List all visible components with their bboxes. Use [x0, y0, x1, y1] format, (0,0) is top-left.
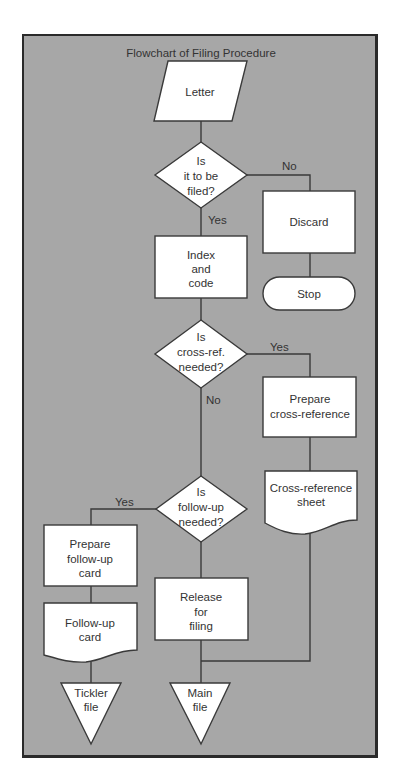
node-prepare-followup: Prepare follow-up card [44, 525, 137, 586]
svg-text:Follow-up: Follow-up [65, 617, 115, 629]
flowchart: Flowchart of Filing Procedure No Yes Yes… [0, 0, 399, 781]
node-discard: Discard [263, 191, 355, 253]
svg-text:card: card [79, 567, 101, 579]
svg-text:Letter: Letter [185, 86, 215, 98]
svg-text:it to be: it to be [184, 170, 219, 182]
svg-text:Discard: Discard [290, 216, 329, 228]
edge-label-yes: Yes [270, 341, 289, 353]
edge-filed-no [247, 175, 310, 191]
document-followup-card: Follow-up card [44, 603, 137, 662]
svg-text:and: and [191, 263, 210, 275]
svg-text:Tickler: Tickler [74, 687, 108, 699]
document-crossref-sheet: Cross-reference sheet [265, 471, 357, 534]
edge-label-no: No [206, 394, 221, 406]
edge-label-yes: Yes [115, 496, 134, 508]
node-release-filing: Release for filing [155, 578, 248, 640]
svg-text:sheet: sheet [297, 496, 326, 508]
node-index-code: Index and code [155, 236, 247, 298]
svg-text:filing: filing [189, 620, 213, 632]
edge-label-no: No [282, 160, 297, 172]
svg-text:Stop: Stop [297, 288, 321, 300]
svg-text:Prepare: Prepare [70, 538, 111, 550]
svg-text:code: code [189, 277, 214, 289]
decision-crossref-needed: Is cross-ref. needed? [155, 320, 247, 388]
decision-followup-needed: Is follow-up needed? [156, 476, 247, 542]
node-letter: Letter [154, 61, 247, 121]
svg-text:file: file [84, 701, 99, 713]
flowchart-title: Flowchart of Filing Procedure [126, 47, 276, 59]
svg-text:Main: Main [188, 687, 213, 699]
node-prepare-crossref: Prepare cross-reference [263, 377, 356, 437]
svg-text:needed?: needed? [179, 361, 224, 373]
svg-text:Is: Is [197, 331, 206, 343]
edge-crossref-yes [247, 354, 310, 377]
svg-text:Is: Is [197, 155, 206, 167]
edge-label-yes: Yes [208, 214, 227, 226]
svg-text:Index: Index [187, 249, 215, 261]
svg-text:file: file [193, 701, 208, 713]
svg-text:follow-up: follow-up [178, 501, 224, 513]
terminator-stop: Stop [263, 277, 355, 310]
svg-text:Cross-reference: Cross-reference [270, 482, 352, 494]
svg-text:needed?: needed? [179, 516, 224, 528]
svg-text:card: card [79, 631, 101, 643]
svg-text:Is: Is [197, 486, 206, 498]
svg-text:follow-up: follow-up [67, 553, 113, 565]
svg-text:filed?: filed? [187, 185, 215, 197]
edge-followup-yes [91, 509, 156, 525]
svg-text:Prepare: Prepare [290, 393, 331, 405]
svg-text:for: for [194, 606, 208, 618]
storage-main-file: Main file [170, 683, 230, 744]
decision-is-filed: Is it to be filed? [155, 142, 247, 208]
svg-text:cross-ref.: cross-ref. [177, 346, 225, 358]
svg-text:cross-reference: cross-reference [270, 408, 350, 420]
svg-text:Release: Release [180, 591, 222, 603]
storage-tickler-file: Tickler file [61, 683, 121, 744]
